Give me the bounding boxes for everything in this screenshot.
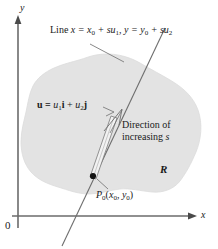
figure-graphics bbox=[0, 0, 218, 249]
y-axis-label: y bbox=[20, 2, 24, 14]
figure-canvas: y x 0 Line x = x0 + su1, y = y0 + su2 u … bbox=[0, 0, 218, 249]
direction-label: Direction of increasing s bbox=[122, 119, 171, 142]
point-close-paren: ) bbox=[130, 189, 133, 200]
line-equation-prefix: Line bbox=[50, 24, 71, 35]
origin-label: 0 bbox=[5, 219, 11, 232]
direction-label-line2-prefix: increasing bbox=[122, 131, 166, 142]
x-axis-arrowhead bbox=[188, 213, 197, 220]
line-equation-y-tail: + su bbox=[148, 24, 169, 35]
line-equation-x: x = x bbox=[71, 24, 92, 35]
line-equation-x-tail-sub: 1 bbox=[116, 29, 120, 37]
line-equation-y: y = y bbox=[124, 24, 145, 35]
point-x-sub: 0 bbox=[113, 194, 117, 202]
line-equation-x-tail: + su bbox=[95, 24, 116, 35]
line-equation-y-tail-sub: 2 bbox=[169, 29, 173, 37]
vector-u1-sub: 1 bbox=[58, 104, 62, 112]
direction-label-s: s bbox=[166, 131, 170, 142]
line-equation-x-sub: 0 bbox=[91, 29, 95, 37]
line-equation-label: Line x = x0 + su1, y = y0 + su2 bbox=[50, 24, 172, 36]
direction-label-line2: increasing s bbox=[122, 131, 171, 143]
point-p0-label: P0(x0, y0) bbox=[96, 189, 133, 201]
region-label: R bbox=[160, 163, 167, 176]
vector-equation-label: u = u1i + u2j bbox=[37, 99, 87, 111]
point-y-sub: 0 bbox=[126, 194, 130, 202]
point-p0-marker bbox=[90, 173, 96, 179]
vector-plus: + bbox=[65, 99, 76, 110]
y-axis-arrowhead bbox=[15, 15, 22, 24]
line-equation-y-sub: 0 bbox=[145, 29, 149, 37]
direction-label-line1: Direction of bbox=[122, 119, 171, 131]
vector-j-hat: j bbox=[84, 99, 87, 110]
vector-equals: = bbox=[43, 99, 54, 110]
vector-u2-sub: 2 bbox=[80, 104, 84, 112]
x-axis-label: x bbox=[201, 209, 205, 221]
point-p-sub: 0 bbox=[102, 194, 106, 202]
